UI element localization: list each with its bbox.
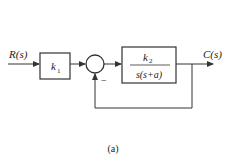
block-diagram: R(s) k 1 − k 2 s(s+a) C(s) (a) <box>0 0 231 167</box>
gain-block-k1: k 1 <box>40 53 70 79</box>
minus-sign: − <box>101 75 107 86</box>
k1-subscript: 1 <box>57 67 61 75</box>
k2-subscript: 2 <box>149 57 153 65</box>
input-label: R(s) <box>8 48 28 61</box>
figure-caption: (a) <box>107 143 118 155</box>
plant-denominator: s(s+a) <box>136 69 163 81</box>
plant-block: k 2 s(s+a) <box>122 47 176 83</box>
output-label: C(s) <box>203 48 222 61</box>
summing-junction <box>86 55 104 73</box>
